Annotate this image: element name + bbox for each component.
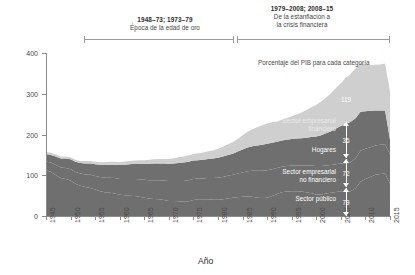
arrow-up-icon	[343, 77, 349, 81]
percent-note: Porcentaje del PIB para cada categoría	[258, 59, 370, 67]
period-right-cap-end	[389, 36, 390, 43]
x-tick-label-2010: 2010	[368, 207, 375, 223]
x-tick-label-1970: 1970	[172, 207, 179, 223]
x-tick-label-1955: 1955	[98, 207, 105, 223]
period-left-cap-end	[233, 36, 234, 43]
category-label-nonfinancial-corporate: Sector empresarial no financiero	[218, 168, 336, 185]
x-tick-label-1975: 1975	[196, 207, 203, 223]
chart-figure: 1948–73; 1973–79 Época de la edad de oro…	[0, 0, 415, 275]
measure-nonfinancial-corporate: 72	[333, 159, 359, 187]
y-tick-100	[42, 175, 46, 176]
period-span-bar-right	[237, 36, 390, 43]
x-tick-1965	[144, 216, 145, 220]
period-right-description-line2: la crisis financiera	[243, 21, 361, 29]
arrow-down-icon	[343, 117, 349, 121]
period-annotation-right: 1979–2008; 2008–15 De la estanflación a …	[243, 5, 361, 29]
measure-households: 36	[333, 122, 359, 158]
arrow-down-icon	[343, 154, 349, 158]
y-tick-label-300: 300	[26, 90, 38, 97]
category-label-nonfinancial-corporate-line2: no financiero	[218, 176, 336, 184]
x-tick-label-1965: 1965	[147, 207, 154, 223]
x-tick-label-2000: 2000	[319, 207, 326, 223]
x-tick-1945	[46, 216, 47, 220]
x-tick-1975	[193, 216, 194, 220]
x-tick-1985	[243, 216, 244, 220]
arrow-up-icon	[343, 159, 349, 163]
measure-households-value: 36	[333, 137, 359, 144]
arrow-down-icon	[343, 183, 349, 187]
arrow-up-icon	[343, 188, 349, 192]
y-tick-200	[42, 135, 46, 136]
x-tick-label-2015: 2015	[393, 207, 400, 223]
y-tick-label-100: 100	[26, 172, 38, 179]
arrow-down-icon	[343, 212, 349, 216]
category-label-financial-corporate-line1: Sector empresarial	[228, 117, 336, 125]
measure-public-value: 79	[333, 199, 359, 206]
category-label-nonfinancial-corporate-line1: Sector empresarial	[218, 168, 336, 176]
period-right-range: 1979–2008; 2008–15	[243, 5, 361, 13]
measure-public-sector: 79	[333, 188, 359, 216]
period-right-description-line1: De la estanflación a	[243, 13, 361, 21]
x-axis-title: Año	[198, 256, 213, 266]
period-right-line	[237, 39, 390, 40]
x-tick-label-1960: 1960	[123, 207, 130, 223]
period-span-bar-left	[84, 36, 234, 43]
x-tick-1955	[95, 216, 96, 220]
category-label-financial-corporate: Sector empresarial financiero	[228, 117, 336, 134]
x-tick-2005	[341, 216, 342, 220]
x-tick-1990	[267, 216, 268, 220]
category-label-public-sector: Sector público	[228, 195, 336, 203]
x-tick-1970	[169, 216, 170, 220]
y-tick-300	[42, 94, 46, 95]
y-tick-label-200: 200	[26, 131, 38, 138]
y-tick-label-0: 0	[34, 213, 38, 220]
y-tick-400	[42, 53, 46, 54]
x-tick-label-1985: 1985	[246, 207, 253, 223]
category-label-households: Hogares	[228, 146, 336, 154]
x-tick-label-1980: 1980	[221, 207, 228, 223]
x-tick-2000	[316, 216, 317, 220]
measure-financial-corporate: 119	[333, 77, 359, 121]
x-tick-label-1990: 1990	[270, 207, 277, 223]
x-tick-label-1945: 1945	[49, 207, 56, 223]
period-left-range: 1948–73; 1973–79	[112, 16, 218, 24]
y-tick-label-400: 400	[26, 50, 38, 57]
x-tick-2010	[365, 216, 366, 220]
category-label-financial-corporate-line2: financiero	[228, 125, 336, 133]
x-tick-1995	[292, 216, 293, 220]
x-tick-1950	[71, 216, 72, 220]
period-annotation-left: 1948–73; 1973–79 Época de la edad de oro	[112, 16, 218, 32]
measure-nonfinancial-value: 72	[333, 170, 359, 177]
x-tick-1980	[218, 216, 219, 220]
period-left-description: Época de la edad de oro	[112, 24, 218, 32]
period-left-line	[84, 39, 234, 40]
x-tick-2015	[390, 216, 391, 220]
x-tick-label-1950: 1950	[74, 207, 81, 223]
y-axis-line	[46, 53, 47, 217]
x-tick-1960	[120, 216, 121, 220]
arrow-up-icon	[343, 122, 349, 126]
x-tick-label-1995: 1995	[295, 207, 302, 223]
measure-financial-value: 119	[333, 96, 359, 103]
